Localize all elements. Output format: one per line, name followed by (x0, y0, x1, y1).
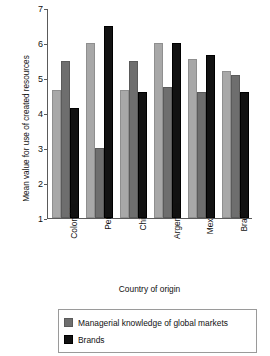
bar (129, 61, 138, 219)
x-axis-title: Country of origin (47, 284, 252, 294)
y-tick-label: 5 (38, 75, 43, 84)
x-axis-tick-labels: ColombiaPeruChileArgentinaMexicoBrazil (48, 221, 253, 279)
bar (222, 71, 231, 218)
y-tick-mark (44, 149, 47, 150)
bar-chart: Mean value for use of created resources … (0, 0, 270, 356)
bar-group (218, 9, 252, 218)
bar-group (184, 9, 218, 218)
bar (104, 26, 113, 219)
bar (52, 90, 61, 218)
bar (240, 92, 249, 218)
legend-label: Managerial knowledge of global markets (78, 318, 228, 328)
y-tick-label: 4 (38, 110, 43, 119)
legend-label: Brands (78, 335, 105, 345)
x-tick-label: Chile (137, 211, 147, 230)
x-tick-label: Brazil (240, 211, 250, 232)
bar (154, 43, 163, 218)
legend-swatch (64, 335, 73, 344)
legend-swatch (64, 318, 73, 327)
bar-group (150, 9, 184, 218)
y-tick-mark (44, 79, 47, 80)
x-tick-label: Colombia (69, 203, 79, 238)
y-tick-label: 7 (38, 5, 43, 14)
y-tick-mark (44, 184, 47, 185)
plot-area: 1234567 (47, 9, 252, 219)
legend-item: Managerial knowledge of global markets (64, 314, 251, 331)
y-tick-label: 6 (38, 40, 43, 49)
bar (70, 108, 79, 218)
bar-group (82, 9, 116, 218)
x-tick-label: Mexico (206, 208, 216, 235)
bar (197, 92, 206, 218)
x-tick-label: Peru (103, 212, 113, 230)
y-tick-label: 3 (38, 145, 43, 154)
bar-group (48, 9, 82, 218)
y-tick-mark (44, 44, 47, 45)
chart-legend: Managerial knowledge of global marketsBr… (58, 309, 257, 353)
bar (61, 61, 70, 219)
y-tick-mark (44, 9, 47, 10)
bar (86, 43, 95, 218)
bar (95, 148, 104, 218)
bar (120, 90, 129, 218)
y-axis-title: Mean value for use of created resources (22, 29, 31, 229)
bar (172, 43, 181, 218)
bar-group (116, 9, 150, 218)
y-tick-mark (44, 114, 47, 115)
y-tick-mark (44, 219, 47, 220)
bar (188, 59, 197, 218)
x-tick-label: Argentina (172, 203, 182, 239)
legend-item: Brands (64, 331, 251, 348)
y-tick-label: 1 (38, 215, 43, 224)
bar (231, 75, 240, 219)
y-tick-label: 2 (38, 180, 43, 189)
bar-groups (48, 9, 252, 218)
bar (138, 92, 147, 218)
bar (206, 55, 215, 218)
bar (163, 87, 172, 218)
